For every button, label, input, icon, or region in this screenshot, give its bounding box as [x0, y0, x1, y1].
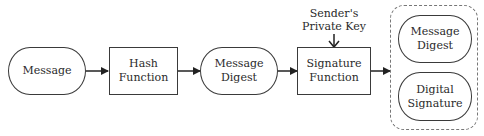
node-hash-function: Hash Function [109, 47, 178, 95]
senders-private-key-label: Sender's Private Key [294, 7, 374, 33]
node-output-message-digest: Message Digest [398, 15, 472, 63]
node-output-digital-signature-label: Digital Signature [407, 83, 462, 111]
node-signature-function-label: Signature Function [306, 57, 361, 85]
node-hash-function-label: Hash Function [119, 57, 169, 85]
node-signature-function: Signature Function [297, 47, 371, 95]
node-output-digital-signature: Digital Signature [398, 72, 472, 121]
node-message-digest-label: Message Digest [214, 57, 263, 85]
node-message: Message [8, 47, 86, 95]
node-output-message-digest-label: Message Digest [410, 25, 459, 53]
node-message-label: Message [22, 64, 71, 78]
node-message-digest: Message Digest [200, 47, 278, 95]
arrow-key-to-signature [329, 34, 339, 47]
